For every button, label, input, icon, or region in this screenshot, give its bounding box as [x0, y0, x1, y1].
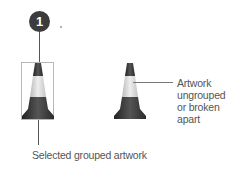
ungrouped-label-line-1: Artwork: [177, 77, 225, 89]
ungrouped-label: Artwork ungrouped or broken apart: [177, 77, 225, 125]
ungrouped-label-line-4: apart: [177, 113, 225, 125]
ungrouped-label-line-3: or broken: [177, 101, 225, 113]
selected-grouped-label: Selected grouped artwork: [32, 149, 147, 161]
ungrouped-leader-line: [133, 82, 173, 83]
callout-leader-line: [39, 32, 40, 63]
decorative-dot: [60, 26, 62, 28]
selected-leader-line: [38, 120, 39, 145]
ungrouped-label-line-2: ungrouped: [177, 89, 225, 101]
traffic-cone-grouped-icon: [21, 62, 55, 121]
traffic-cone-ungrouped-icon: [113, 62, 147, 121]
callout-number-badge: 1: [29, 11, 50, 32]
